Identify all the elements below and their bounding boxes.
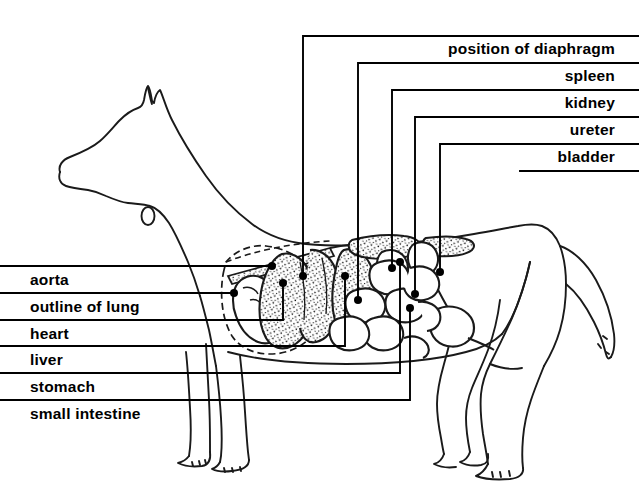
- label-stomach: stomach: [30, 379, 95, 395]
- label-outline-of-lung: outline of lung: [30, 299, 140, 315]
- background: [0, 0, 639, 499]
- label-heart: heart: [30, 326, 69, 342]
- diagram-canvas: position of diaphragm spleen kidney uret…: [0, 0, 639, 499]
- anatomy-illustration: [0, 0, 639, 499]
- label-kidney: kidney: [565, 95, 615, 111]
- label-liver: liver: [30, 352, 63, 368]
- label-ureter: ureter: [570, 122, 615, 138]
- label-small-intestine: small intestine: [30, 406, 141, 422]
- label-bladder: bladder: [558, 149, 615, 165]
- label-aorta: aorta: [30, 272, 69, 288]
- label-spleen: spleen: [565, 68, 615, 84]
- label-position-of-diaphragm: position of diaphragm: [448, 41, 615, 57]
